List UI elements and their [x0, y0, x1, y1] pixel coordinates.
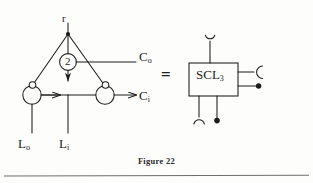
top-cup-terminal-icon	[205, 35, 214, 39]
node-2-label: 2	[65, 56, 71, 67]
figure-22-container: r 2 Co Ci Lo Li = SCL3 Figure 22	[0, 0, 313, 183]
scl3-label-base: SCL	[196, 67, 220, 82]
output-label-co: Co	[139, 50, 152, 63]
output-label-ci: Ci	[139, 89, 150, 102]
output-label-co-base: C	[139, 49, 148, 64]
left-amplifier-bubble	[29, 82, 36, 89]
scl3-label-subscript: 3	[220, 74, 224, 83]
figure-caption: Figure 22	[0, 156, 313, 166]
bottom-arc-terminal-icon	[194, 120, 205, 124]
apex-label-r: r	[62, 13, 66, 24]
output-label-ci-base: C	[139, 88, 148, 103]
input-label-li-subscript: i	[67, 143, 69, 152]
input-label-li-base: L	[59, 136, 67, 151]
output-label-co-subscript: o	[148, 56, 152, 65]
equals-sign: =	[161, 66, 170, 83]
input-label-lo-base: L	[18, 136, 26, 151]
right-dot-terminal-icon	[256, 83, 261, 88]
input-label-lo-subscript: o	[26, 143, 30, 152]
input-label-lo: Lo	[18, 137, 30, 150]
left-network-diagram	[23, 23, 136, 133]
bottom-dot-terminal-icon	[214, 118, 220, 124]
output-label-ci-subscript: i	[148, 95, 150, 104]
right-arc-terminal-icon	[257, 66, 263, 78]
scl3-box-label: SCL3	[196, 68, 224, 81]
input-label-li: Li	[59, 137, 69, 150]
right-amplifier-bubble	[102, 82, 109, 89]
caption-divider-rule	[4, 175, 309, 176]
